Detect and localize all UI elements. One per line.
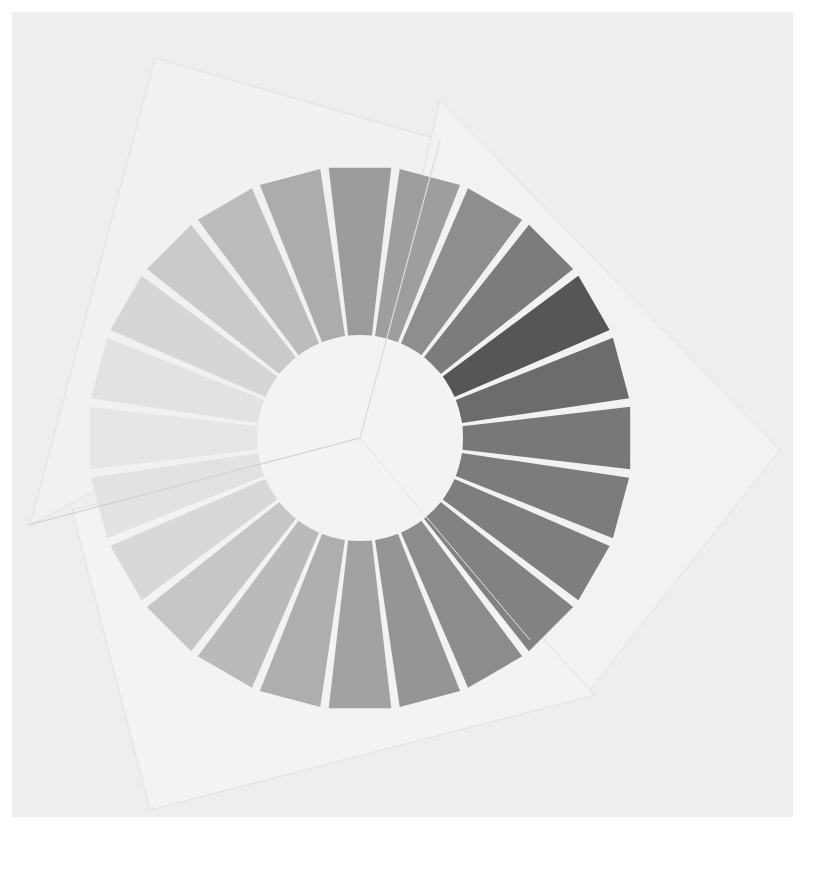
artwork-photo xyxy=(0,0,831,870)
